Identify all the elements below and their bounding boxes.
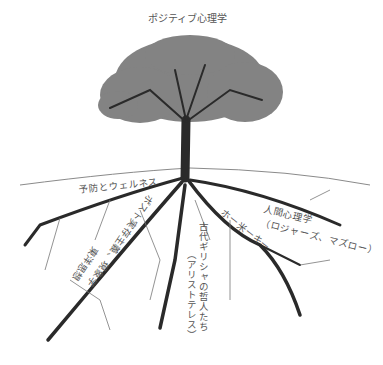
label-greek-philosophers: 古代ギリシャの哲人たち bbox=[198, 222, 208, 332]
ground-line bbox=[20, 168, 370, 185]
diagram-title: ポジティブ心理学 bbox=[148, 14, 227, 24]
label-aristotle: （アリストテレス） bbox=[186, 250, 196, 340]
roots bbox=[25, 178, 340, 340]
